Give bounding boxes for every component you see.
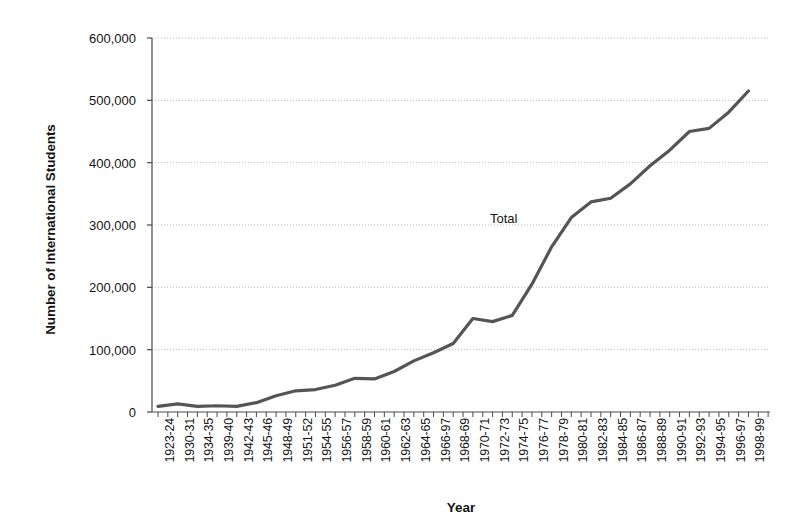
x-tick-label: 1982-83 <box>596 418 610 462</box>
x-tick-label: 1923-24 <box>163 418 177 462</box>
data-series-layer <box>158 91 748 406</box>
x-tick-label: 1962-63 <box>399 418 413 462</box>
x-tick-label: 1990-91 <box>675 418 689 462</box>
x-tick-label: 1964-65 <box>419 418 433 462</box>
x-tick-label: 1980-81 <box>576 418 590 462</box>
x-tick-label: 1966-97 <box>439 418 453 462</box>
y-tick-label: 600,000 <box>56 31 144 46</box>
x-tick-label: 1942-43 <box>242 418 256 462</box>
y-tick-label: 300,000 <box>56 218 144 233</box>
tick-marks <box>147 38 768 417</box>
x-tick-label: 1958-59 <box>360 418 374 462</box>
x-tick-label: 1994-95 <box>714 418 728 462</box>
y-tick-label: 100,000 <box>56 342 144 357</box>
series-line-total <box>158 91 748 406</box>
y-tick-label: 500,000 <box>56 93 144 108</box>
x-tick-label: 1998-99 <box>753 418 767 462</box>
x-tick-label: 1948-49 <box>281 418 295 462</box>
x-tick-label: 1951-52 <box>301 418 315 462</box>
series-annotation-total: Total <box>490 211 517 226</box>
x-tick-label: 1992-93 <box>694 418 708 462</box>
x-tick-label: 1974-75 <box>517 418 531 462</box>
x-tick-label: 1930-31 <box>183 418 197 462</box>
y-tick-label: 0 <box>56 405 144 420</box>
x-tick-label: 1954-55 <box>320 418 334 462</box>
x-tick-label: 1988-89 <box>655 418 669 462</box>
x-axis-title: Year <box>152 500 770 515</box>
y-tick-label: 400,000 <box>56 155 144 170</box>
x-tick-label: 1970-71 <box>478 418 492 462</box>
x-tick-label: 1972-73 <box>498 418 512 462</box>
x-tick-label: 1956-57 <box>340 418 354 462</box>
x-tick-label: 1939-40 <box>222 418 236 462</box>
x-tick-label: 1968-69 <box>458 418 472 462</box>
x-tick-label: 1945-46 <box>261 418 275 462</box>
x-tick-label: 1976-77 <box>537 418 551 462</box>
x-tick-label: 1960-61 <box>379 418 393 462</box>
x-tick-label: 1984-85 <box>616 418 630 462</box>
line-chart: Number of International Students 0100,00… <box>0 0 804 530</box>
x-tick-label: 1978-79 <box>557 418 571 462</box>
x-tick-label: 1934-35 <box>202 418 216 462</box>
y-tick-label: 200,000 <box>56 280 144 295</box>
gridlines <box>152 38 770 350</box>
x-tick-label: 1996-97 <box>734 418 748 462</box>
x-tick-label: 1986-87 <box>635 418 649 462</box>
